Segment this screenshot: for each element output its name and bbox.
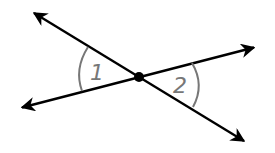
intersection-point bbox=[134, 72, 144, 82]
angle-2-label: 2 bbox=[173, 73, 187, 98]
angle-1-label: 1 bbox=[90, 60, 104, 85]
vertical-angles-figure: 1 2 bbox=[0, 0, 275, 153]
diagram-canvas: 1 2 bbox=[0, 0, 275, 153]
angle-1-arc bbox=[79, 47, 88, 91]
angle-2-arc bbox=[192, 63, 199, 107]
